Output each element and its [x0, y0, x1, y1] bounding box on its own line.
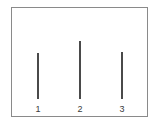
- bar-line-2: [79, 41, 81, 99]
- x-tick-label-3: 3: [110, 104, 134, 115]
- plot-frame: 1 2 3: [11, 7, 148, 117]
- bar-group-1: 1: [26, 8, 50, 116]
- bar-line-3: [121, 52, 123, 99]
- x-tick-label-1: 1: [26, 104, 50, 115]
- bar-group-2: 2: [68, 8, 92, 116]
- x-tick-label-2: 2: [68, 104, 92, 115]
- plot-area: 1 2 3: [12, 8, 147, 116]
- bar-line-1: [37, 53, 39, 99]
- bar-group-3: 3: [110, 8, 134, 116]
- figure-root: 1 2 3: [0, 0, 159, 124]
